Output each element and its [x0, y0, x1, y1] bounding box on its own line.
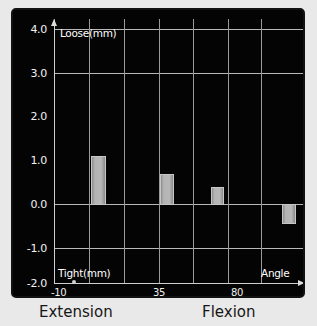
- x-axis-arrow-icon: [298, 280, 305, 286]
- y-axis-arrow-icon: [51, 19, 57, 26]
- xtick-label-80: 80: [231, 287, 243, 298]
- caption-flexion: Flexion: [202, 303, 256, 321]
- gridline-x-2: [89, 19, 90, 284]
- gridline-x-5: [193, 19, 194, 284]
- gridline-x-4: [159, 19, 160, 284]
- plot-panel: 4.0 3.0 2.0 1.0 0.0 -1.0 -2.0 Loose(mm) …: [11, 8, 305, 298]
- gridline-x-3: [124, 19, 125, 284]
- ytick-label-0: 0.0: [15, 198, 47, 211]
- gridline-y-minus1: [54, 248, 305, 249]
- ytick-label-minus1: -1.0: [15, 242, 47, 255]
- gridline-x-6: [228, 19, 229, 284]
- ytick-label-2: 2.0: [15, 110, 47, 123]
- ytick-label-1: 1.0: [15, 154, 47, 167]
- ytick-label-3: 3.0: [15, 67, 47, 80]
- x-axis-right-label: Angle: [261, 267, 289, 279]
- gridline-x-7: [261, 19, 262, 284]
- xtick-label-minus10: -10: [51, 287, 66, 298]
- ytick-label-4: 4.0: [15, 23, 47, 36]
- bar-4: [282, 204, 296, 224]
- y-axis-line: [54, 26, 55, 284]
- xtick-label-35: 35: [153, 287, 165, 298]
- ytick-label-minus2: -2.0: [15, 277, 47, 290]
- chart-figure: 4.0 3.0 2.0 1.0 0.0 -1.0 -2.0 Loose(mm) …: [0, 0, 317, 326]
- y-axis-top-label: Loose(mm): [60, 27, 116, 39]
- origin-marker-icon: [72, 280, 76, 284]
- x-axis-line: [54, 283, 300, 284]
- bar-3: [211, 187, 224, 205]
- y-axis-bottom-label: Tight(mm): [58, 267, 110, 279]
- caption-extension: Extension: [39, 303, 113, 321]
- gridline-y-3: [54, 73, 305, 74]
- bar-2: [160, 174, 174, 205]
- bar-1: [91, 156, 106, 205]
